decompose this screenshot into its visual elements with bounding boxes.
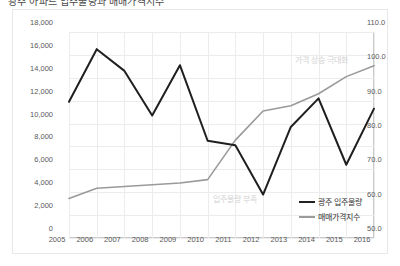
chart-screenshot: 광주 아파트 입주물량과 매매가격지수 02,0004,0006,0008,00…: [0, 0, 400, 266]
legend-label-price: 매매가격지수: [318, 211, 360, 222]
legend-item-supply[interactable]: 광주 입주물량: [299, 194, 362, 209]
left-axis-tick-label: 16,000: [7, 41, 53, 50]
x-axis-tick-label: 2016: [345, 235, 379, 244]
legend-label-supply: 광주 입주물량: [318, 196, 362, 207]
annotation-supply-shortage: 입주물량 부족: [213, 193, 257, 204]
left-axis-tick-label: 12,000: [7, 87, 53, 96]
left-axis-tick-label: 10,000: [7, 110, 53, 119]
right-axis-tick-label: 70.0: [367, 155, 397, 164]
right-axis-tick-label: 50.0: [367, 224, 397, 233]
right-axis-tick-label: 100.0: [367, 52, 397, 61]
legend-swatch-supply: [299, 201, 315, 203]
right-axis-tick-label: 60.0: [367, 190, 397, 199]
left-axis-tick-label: 4,000: [7, 178, 53, 187]
left-axis-tick-label: 18,000: [7, 18, 53, 27]
annotation-price-peak: 가격 상승 극대화: [295, 54, 348, 65]
left-axis-tick-label: 2,000: [7, 201, 53, 210]
right-axis-tick-label: 90.0: [367, 87, 397, 96]
legend-item-price[interactable]: 매매가격지수: [299, 209, 362, 224]
chart-legend: 광주 입주물량 매매가격지수: [299, 194, 362, 224]
right-axis-tick-label: 80.0: [367, 121, 397, 130]
left-axis-tick-label: 6,000: [7, 155, 53, 164]
right-axis-tick-label: 110.0: [367, 18, 397, 27]
left-axis-tick-label: 14,000: [7, 64, 53, 73]
legend-swatch-price: [299, 216, 315, 218]
vertical-gridline: [374, 32, 375, 238]
left-axis-tick-label: 0: [7, 224, 53, 233]
left-axis-tick-label: 8,000: [7, 132, 53, 141]
page-title: 광주 아파트 입주물량과 매매가격지수: [8, 0, 164, 8]
chart-frame: 02,0004,0006,0008,00010,00012,00014,0001…: [12, 9, 388, 254]
